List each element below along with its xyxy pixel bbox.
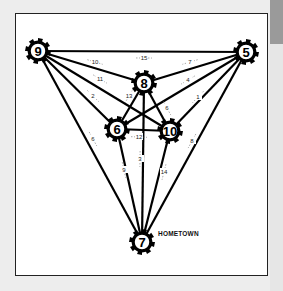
node-label: 8 (140, 76, 147, 91)
edge-weight-label: 15 (141, 55, 148, 61)
edge-10-7 (142, 131, 170, 242)
edge-6-7 (117, 129, 142, 242)
hometown-caption: HOMETOWN (158, 230, 199, 237)
node-label: 7 (138, 235, 145, 250)
edge-weight-label: 12 (136, 134, 143, 140)
node-10: 10 (157, 118, 183, 144)
node-label: 6 (113, 122, 120, 137)
edge-weight-label: 10 (92, 59, 99, 65)
node-5: 5 (233, 39, 259, 65)
node-label: 5 (242, 45, 249, 60)
node-label: 9 (34, 44, 41, 59)
node-label: 10 (163, 124, 177, 139)
edge-weight-label: 13 (126, 93, 133, 99)
graph-diagram: 151011267418136312914 9586107 HOMETOWN (0, 0, 283, 291)
edge-weight-label: 11 (97, 76, 104, 82)
edge-9-5 (38, 51, 246, 52)
node-7: 7 (129, 229, 155, 255)
edge-5-7 (142, 52, 246, 242)
edge-8-7 (142, 83, 144, 242)
edge-weight-label: 14 (161, 169, 168, 175)
node-8: 8 (131, 70, 157, 96)
node-9: 9 (25, 38, 51, 64)
edge-9-7 (38, 51, 142, 242)
node-6: 6 (104, 116, 130, 142)
